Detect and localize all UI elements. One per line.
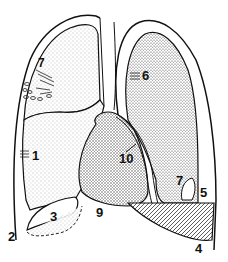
- label-7: 7: [176, 173, 183, 188]
- left-costodiaphragmatic-recess: [128, 203, 214, 240]
- label-6: 6: [142, 68, 149, 83]
- right-upper-lobe: [24, 25, 100, 120]
- lung-diagram: 7 6 1 10 7 5 3 9 2 4: [0, 0, 228, 262]
- label-9: 9: [96, 205, 103, 220]
- label-1: 1: [32, 148, 39, 163]
- label-8: 7: [38, 56, 45, 70]
- label-5: 5: [200, 185, 207, 200]
- label-10: 10: [119, 151, 133, 166]
- label-4: 4: [195, 241, 203, 256]
- trachea-region: [100, 18, 116, 110]
- label-2: 2: [8, 229, 15, 244]
- label-3: 3: [50, 209, 57, 224]
